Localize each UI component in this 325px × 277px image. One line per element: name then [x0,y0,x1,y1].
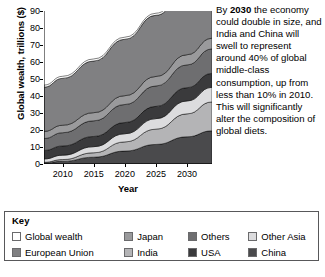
annotation-text: By 2030 the economy could double in size… [216,4,323,137]
legend-items: Global wealthJapanOthersOther AsiaEurope… [12,228,314,260]
legend-title: Key [12,215,29,226]
y-tick-label: 90 [20,7,40,16]
legend-item-global-wealth[interactable]: Global wealth [12,231,124,242]
y-tick-mark [40,113,43,114]
legend-label: Japan [137,231,163,242]
stacked-area-chart: Global wealth, trillions ($) 01020304050… [0,0,215,205]
legend-item-other-asia[interactable]: Other Asia [248,231,314,242]
legend-row: European UnionIndiaUSAChina [12,244,314,260]
y-tick-mark [40,130,43,131]
legend-swatch-icon [248,232,257,241]
y-tick-mark [40,96,43,97]
legend-label: Others [201,231,230,242]
legend-key-box: Key Global wealthJapanOthersOther AsiaEu… [4,211,319,261]
annotation-body: the economy could double in size, and In… [216,4,322,136]
y-tick-mark [40,28,43,29]
y-tick-mark [40,45,43,46]
y-tick-label: 80 [20,24,40,33]
x-tick-mark [94,164,95,167]
legend-swatch-icon [124,232,133,241]
x-tick-label: 2010 [48,169,78,179]
x-tick-label: 2015 [79,169,109,179]
legend-item-india[interactable]: India [124,247,188,258]
legend-swatch-icon [188,248,197,257]
x-tick-label: 2020 [110,169,140,179]
legend-label: India [137,247,158,258]
x-tick-mark [187,164,188,167]
annotation-prefix: By [216,4,230,15]
y-tick-label: 60 [20,58,40,67]
annotation-highlight-year: 2030 [230,4,251,15]
legend-item-others[interactable]: Others [188,231,248,242]
legend-swatch-icon [12,232,21,241]
legend-item-european-union[interactable]: European Union [12,247,124,258]
y-axis-ticks: 0102030405060708090 [18,0,40,175]
x-tick-label: 2030 [172,169,202,179]
legend-row: Global wealthJapanOthersOther Asia [12,228,314,244]
x-tick-mark [156,164,157,167]
chart-figure: Global wealth, trillions ($) 01020304050… [0,0,325,277]
x-tick-mark [125,164,126,167]
legend-label: USA [201,247,221,258]
y-tick-label: 30 [20,109,40,118]
y-tick-mark [40,79,43,80]
y-tick-label: 0 [20,160,40,169]
y-tick-mark [40,147,43,148]
legend-label: Global wealth [25,231,83,242]
x-axis-title: Year [44,183,212,194]
legend-item-china[interactable]: China [248,247,314,258]
area-series-group [44,11,212,164]
y-tick-label: 70 [20,41,40,50]
y-tick-label: 40 [20,92,40,101]
y-tick-label: 20 [20,126,40,135]
x-axis-ticks: 20102015202020252030 [44,164,214,184]
plot-area [44,11,212,164]
legend-swatch-icon [124,248,133,257]
x-tick-mark [63,164,64,167]
legend-swatch-icon [188,232,197,241]
legend-swatch-icon [248,248,257,257]
y-tick-mark [40,62,43,63]
y-tick-label: 10 [20,143,40,152]
legend-item-usa[interactable]: USA [188,247,248,258]
legend-item-japan[interactable]: Japan [124,231,188,242]
y-tick-label: 50 [20,75,40,84]
x-tick-label: 2025 [141,169,171,179]
y-tick-mark [40,164,43,165]
legend-label: Other Asia [261,231,305,242]
legend-label: European Union [25,247,94,258]
legend-label: China [261,247,286,258]
legend-swatch-icon [12,248,21,257]
y-tick-mark [40,11,43,12]
